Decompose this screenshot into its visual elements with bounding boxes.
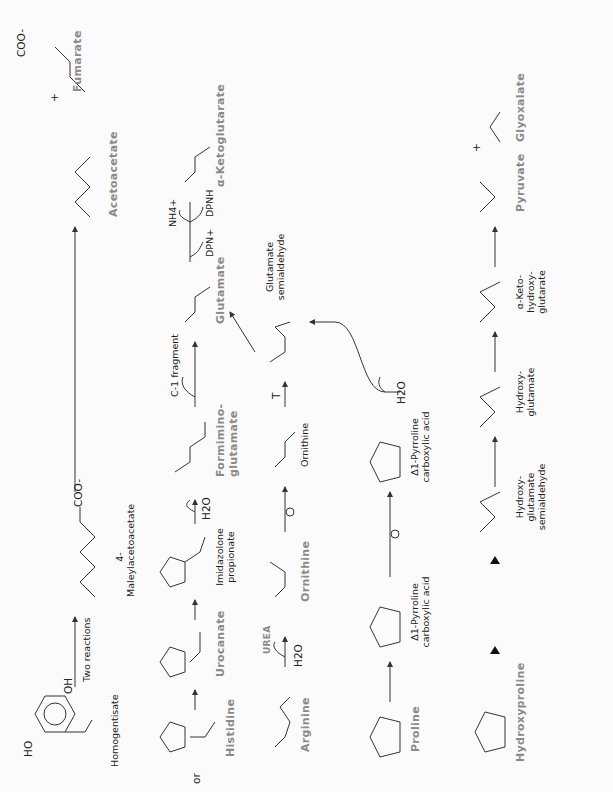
homogentisate-ho: HO [22, 741, 34, 757]
plus-sign: + [48, 93, 60, 102]
glyoxalate-label: Glyoxalate [515, 73, 528, 142]
t-reagent: T [270, 393, 282, 399]
dpn-plus-label: DPN+ [205, 229, 216, 257]
ornithine-label: Ornithine [300, 541, 313, 602]
arginine-label: Arginine [300, 697, 313, 752]
dpnh-label: DPNH [205, 190, 216, 217]
homogentisate-label: Homogentisate [110, 694, 121, 767]
ornithine-plain-label: Ornithine [300, 423, 311, 467]
or-label: or [190, 773, 202, 784]
glutamate-label: Glutamate [215, 256, 228, 324]
pyrroline-carboxylic-acid-label: Δ1-Pyrroline carboxylic acid [410, 572, 432, 652]
h2o-reagent-3: H2O [395, 381, 407, 404]
fumarate-label: Fumarate [72, 30, 85, 92]
urea-label: UREA [262, 625, 272, 654]
plus-sign-2: + [470, 143, 482, 152]
maleylacetoacetate-coo: COO- [72, 479, 84, 507]
glutamate-semialdehyde-label: Glutamate semialdehyde [265, 232, 287, 302]
urocanate-label: Urocanate [215, 610, 228, 677]
acetoacetate-label: Acetoacetate [108, 131, 121, 217]
homogentisate-oh: OH [62, 678, 74, 694]
h2o-reagent: H2O [200, 497, 212, 520]
hydroxyproline-label: Hydroxyproline [515, 663, 528, 762]
hydroxyglutamate-semialdehyde-label: Hydroxy-glutamate semialdehyde [515, 457, 548, 537]
formiminoglutamate-label: Formimino-glutamate [215, 407, 240, 477]
c1-fragment-label: C-1 fragment [170, 334, 181, 397]
proline-label: Proline [410, 706, 423, 752]
pyrroline-carboxylic-acid-label-2: Δ1-Pyrroline carboxylic acid [410, 407, 432, 487]
alpha-keto-hydroxyglutarate-label: α-Keto-hydroxy-glutarate [515, 262, 548, 322]
histidine-label: Histidine [225, 699, 238, 757]
fumarate-coo: COO- [15, 29, 27, 57]
hydroxyglutamate-label: Hydroxy-glutamate [515, 357, 537, 427]
pyruvate-label: Pyruvate [515, 154, 528, 212]
alpha-ketoglutarate-label: α-Ketoglutarate [215, 84, 228, 187]
maleylacetoacetate-label: 4-Maleylacetoacetate [115, 517, 137, 597]
nh4-label: NH4+ [168, 199, 179, 227]
two-reactions-label: Two reactions [82, 617, 93, 682]
pathway-figure: HO OH Homogentisate Two reactions COO- 4… [0, 0, 613, 792]
imidazolone-propionate-label: Imidazolone propionate [215, 522, 237, 592]
h2o-reagent-2: H2O [292, 644, 304, 667]
